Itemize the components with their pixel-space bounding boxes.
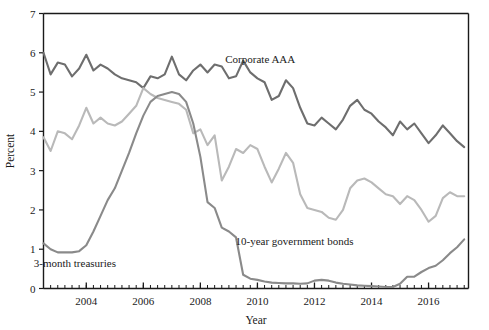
chart-background bbox=[0, 0, 489, 330]
y-tick-label-7: 7 bbox=[30, 8, 36, 20]
y-axis-title: Percent bbox=[4, 133, 16, 168]
y-tick-label-2: 2 bbox=[30, 204, 36, 216]
ten-year-bonds-label: 10-year government bonds bbox=[236, 235, 354, 247]
y-tick-label-0: 0 bbox=[30, 283, 36, 295]
corporate-aaa-label: Corporate AAA bbox=[225, 53, 295, 65]
y-tick-label-6: 6 bbox=[30, 47, 36, 59]
x-axis-title: Year bbox=[245, 314, 266, 326]
x-tick-label-2016: 2016 bbox=[418, 295, 441, 307]
x-tick-label-2004: 2004 bbox=[75, 295, 98, 307]
x-tick-label-2006: 2006 bbox=[132, 295, 155, 307]
x-tick-label-2012: 2012 bbox=[303, 295, 325, 307]
y-tick-label-3: 3 bbox=[30, 165, 36, 177]
y-tick-label-4: 4 bbox=[30, 125, 36, 137]
x-tick-label-2008: 2008 bbox=[189, 295, 212, 307]
x-tick-label-2010: 2010 bbox=[246, 295, 269, 307]
three-month-treasuries-label: 3-month treasuries bbox=[34, 257, 116, 269]
chart-canvas: 012345672004200620082010201220142016 Yea… bbox=[0, 0, 489, 330]
interest-rates-line-chart: 012345672004200620082010201220142016 Yea… bbox=[0, 0, 489, 330]
x-tick-label-2014: 2014 bbox=[361, 295, 384, 307]
y-tick-label-5: 5 bbox=[30, 86, 36, 98]
y-tick-label-1: 1 bbox=[30, 243, 36, 255]
